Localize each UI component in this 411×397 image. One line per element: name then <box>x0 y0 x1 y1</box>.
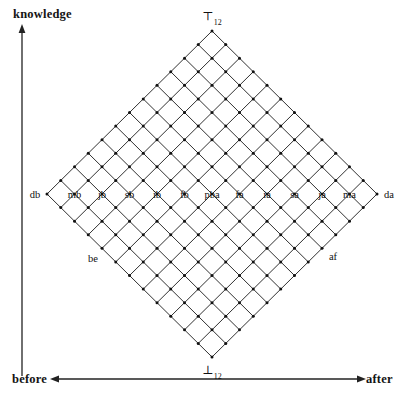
horizontal-axis-arrow-right-icon <box>357 376 366 383</box>
interior-node-label-af: af <box>329 251 337 262</box>
lattice-node <box>252 125 255 128</box>
midline-node-label-pba: pba <box>204 189 219 200</box>
midline-node-label-db: db <box>30 189 41 200</box>
lattice-node <box>307 152 310 155</box>
lattice-node <box>128 111 131 114</box>
lattice-node <box>224 43 227 46</box>
top-apex-symbol: ⊤ <box>202 9 213 23</box>
lattice-node <box>334 233 337 236</box>
lattice-node <box>293 165 296 168</box>
top-apex-subscript: 12 <box>214 18 222 27</box>
lattice-node <box>211 328 214 331</box>
lattice-node <box>279 288 282 291</box>
lattice-node <box>224 179 227 182</box>
lattice-node <box>224 315 227 318</box>
lattice-node <box>266 301 269 304</box>
lattice-node <box>114 233 117 236</box>
lattice-node <box>169 152 172 155</box>
interior-node-label-be: be <box>88 253 98 264</box>
lattice-node <box>238 138 241 141</box>
lattice-node <box>252 315 255 318</box>
lattice-node <box>307 206 310 209</box>
lattice-node <box>197 125 200 128</box>
lattice-node <box>183 57 186 60</box>
lattice-node <box>142 233 145 236</box>
lattice-node <box>156 220 159 223</box>
lattice-node <box>334 206 337 209</box>
lattice-node <box>252 233 255 236</box>
lattice-node <box>156 301 159 304</box>
lattice-node <box>156 138 159 141</box>
lattice-node <box>114 152 117 155</box>
lattice-node <box>114 260 117 263</box>
lattice-node <box>266 274 269 277</box>
horizontal-axis-arrow-left-icon <box>50 376 59 383</box>
lattice-node <box>224 206 227 209</box>
lattice-node <box>128 165 131 168</box>
lattice-node <box>321 220 324 223</box>
lattice-node <box>293 220 296 223</box>
lattice-node <box>334 179 337 182</box>
lattice-node <box>197 70 200 73</box>
lattice-node <box>211 138 214 141</box>
lattice-node <box>266 220 269 223</box>
lattice-node <box>169 179 172 182</box>
lattice-node <box>224 70 227 73</box>
lattice-node <box>293 274 296 277</box>
lattice-node <box>238 274 241 277</box>
lattice-node <box>101 138 104 141</box>
lattice-node <box>101 165 104 168</box>
lattice-node <box>211 301 214 304</box>
lattice-node <box>224 288 227 291</box>
lattice-node <box>169 315 172 318</box>
lattice-node <box>114 125 117 128</box>
midline-node-label-fb: fb <box>180 189 189 200</box>
midline-node-label-ib: ib <box>153 189 161 200</box>
lattice-node <box>211 165 214 168</box>
lattice-node <box>293 247 296 250</box>
lattice-node <box>183 247 186 250</box>
lattice-node <box>87 152 90 155</box>
top-apex-label: ⊤12 <box>202 9 221 25</box>
lattice-node <box>238 301 241 304</box>
lattice-node <box>362 206 365 209</box>
lattice-node <box>238 57 241 60</box>
lattice-node <box>307 260 310 263</box>
lattice-node <box>183 328 186 331</box>
lattice-node <box>128 220 131 223</box>
lattice-node <box>183 301 186 304</box>
lattice-node <box>224 97 227 100</box>
lattice-node <box>142 179 145 182</box>
lattice-node <box>183 165 186 168</box>
lattice-node <box>293 111 296 114</box>
lattice-node <box>224 342 227 345</box>
lattice-node <box>142 125 145 128</box>
lattice-node <box>128 247 131 250</box>
lattice-node <box>183 274 186 277</box>
lattice-node <box>279 97 282 100</box>
lattice-node <box>252 179 255 182</box>
lattice-node <box>334 152 337 155</box>
lattice-node <box>211 30 214 33</box>
lattice-node <box>156 274 159 277</box>
lattice-node <box>279 260 282 263</box>
lattice-node <box>211 274 214 277</box>
lattice-node <box>266 84 269 87</box>
lattice-node <box>59 206 62 209</box>
lattice-node <box>211 247 214 250</box>
lattice-node <box>197 233 200 236</box>
lattice-node <box>252 97 255 100</box>
lattice-node <box>279 179 282 182</box>
lattice-node <box>362 179 365 182</box>
lattice-node <box>266 165 269 168</box>
lattice-node <box>238 111 241 114</box>
lattice-node <box>293 138 296 141</box>
lattice-node <box>266 111 269 114</box>
lattice-node <box>169 97 172 100</box>
lattice-node <box>307 125 310 128</box>
lattice-node <box>252 70 255 73</box>
vertical-axis-arrow-icon <box>19 24 26 33</box>
midline-node-label-da: da <box>384 189 394 200</box>
lattice-node <box>156 247 159 250</box>
lattice-node <box>321 165 324 168</box>
